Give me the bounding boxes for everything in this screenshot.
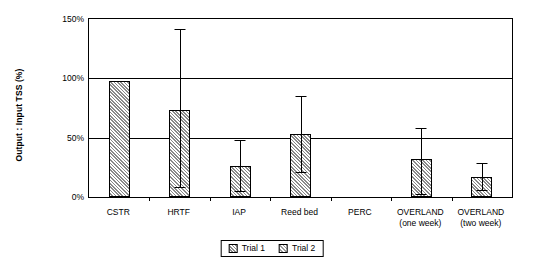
legend-label: Trial 1 bbox=[242, 243, 265, 253]
x-axis-category-label: IAP bbox=[232, 207, 246, 218]
error-bar-cap bbox=[235, 140, 246, 141]
error-bar bbox=[421, 129, 422, 194]
y-axis-tick-label: 0% bbox=[72, 192, 89, 202]
x-axis-category-label: PERC bbox=[348, 207, 372, 218]
chart-legend: Trial 1 Trial 2 bbox=[221, 240, 324, 257]
error-bar-cap bbox=[295, 172, 306, 173]
gridline bbox=[89, 78, 512, 79]
legend-label: Trial 2 bbox=[292, 243, 315, 253]
x-axis-category-line: (two week) bbox=[457, 218, 504, 229]
error-bar-cap bbox=[476, 190, 487, 191]
x-axis-category-label: HRTF bbox=[167, 207, 190, 218]
y-axis-tick-label: 150% bbox=[62, 14, 89, 24]
legend-swatch-icon bbox=[229, 244, 238, 253]
y-axis-tick-label: 100% bbox=[62, 73, 89, 83]
x-axis-category-label: OVERLAND(one week) bbox=[397, 207, 444, 229]
x-axis-category-line: OVERLAND bbox=[457, 207, 504, 218]
y-axis-title: Output : Input TSS (%) bbox=[14, 60, 24, 170]
error-bar-cap bbox=[235, 191, 246, 192]
plot-area: 0%50%100%150% bbox=[88, 18, 513, 198]
error-bar bbox=[180, 30, 181, 188]
x-axis-category-label: OVERLAND(two week) bbox=[457, 207, 504, 229]
x-axis-tick-mark bbox=[331, 197, 332, 201]
legend-item-trial-1: Trial 1 bbox=[229, 243, 265, 253]
error-bar-cap bbox=[416, 194, 427, 195]
x-axis-tick-mark bbox=[391, 197, 392, 201]
x-axis-category-line: IAP bbox=[232, 207, 246, 218]
error-bar-cap bbox=[174, 29, 185, 30]
x-axis-category-line: Reed bed bbox=[281, 207, 318, 218]
error-bar bbox=[301, 97, 302, 173]
chart-container: Output : Input TSS (%) 0%50%100%150% CST… bbox=[0, 0, 544, 268]
x-axis-tick-mark bbox=[270, 197, 271, 201]
x-axis-tick-mark bbox=[210, 197, 211, 201]
error-bar-cap bbox=[476, 163, 487, 164]
x-axis-tick-mark bbox=[452, 197, 453, 201]
y-axis-tick-label: 50% bbox=[67, 133, 89, 143]
error-bar-cap bbox=[295, 96, 306, 97]
error-bar bbox=[482, 164, 483, 191]
x-axis-category-line: OVERLAND bbox=[397, 207, 444, 218]
x-axis-category-line: (one week) bbox=[397, 218, 444, 229]
x-axis-category-label: CSTR bbox=[107, 207, 130, 218]
x-axis-tick-mark bbox=[149, 197, 150, 201]
legend-item-trial-2: Trial 2 bbox=[279, 243, 315, 253]
x-axis-labels: CSTRHRTFIAPReed bedPERCOVERLAND(one week… bbox=[88, 202, 513, 236]
error-bar-cap bbox=[416, 128, 427, 129]
error-bar bbox=[240, 141, 241, 192]
bar bbox=[109, 81, 130, 197]
x-axis-category-line: PERC bbox=[348, 207, 372, 218]
legend-swatch-icon bbox=[279, 244, 288, 253]
error-bar-cap bbox=[174, 187, 185, 188]
x-axis-category-label: Reed bed bbox=[281, 207, 318, 218]
x-axis-category-line: CSTR bbox=[107, 207, 130, 218]
x-axis-category-line: HRTF bbox=[167, 207, 190, 218]
